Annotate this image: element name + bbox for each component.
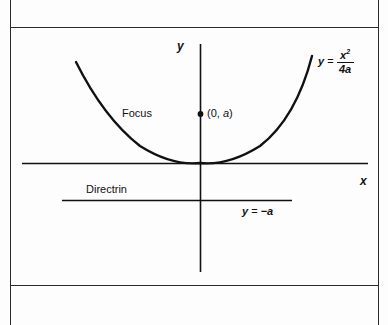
focus-coordinates-suffix: )	[229, 107, 233, 119]
directrix-equation-rhs: −a	[261, 205, 274, 217]
curve-equation-fraction: x2 4a	[337, 48, 354, 75]
focus-coordinates-prefix: (0,	[207, 107, 223, 119]
figure-page: y x Focus (0, a) Directrin y = −a y = x2…	[0, 0, 388, 325]
directrix-equation: y = −a	[242, 206, 273, 217]
curve-equation-operator: =	[327, 55, 333, 67]
fraction-denominator: 4a	[337, 63, 353, 75]
fraction-numerator-exponent: 2	[346, 48, 350, 55]
curve-equation: y = x2 4a	[318, 48, 354, 75]
fraction-numerator: x2	[338, 48, 352, 62]
focus-point	[198, 111, 204, 117]
y-axis-label: y	[177, 40, 184, 52]
focus-coordinates: (0, a)	[207, 108, 233, 119]
x-axis-label: x	[360, 175, 367, 187]
directrix-label: Directrin	[86, 184, 127, 195]
curve-equation-lhs: y	[318, 55, 324, 67]
focus-label: Focus	[122, 108, 152, 119]
directrix-equation-operator: =	[248, 205, 261, 217]
parabola-curve	[76, 56, 312, 163]
